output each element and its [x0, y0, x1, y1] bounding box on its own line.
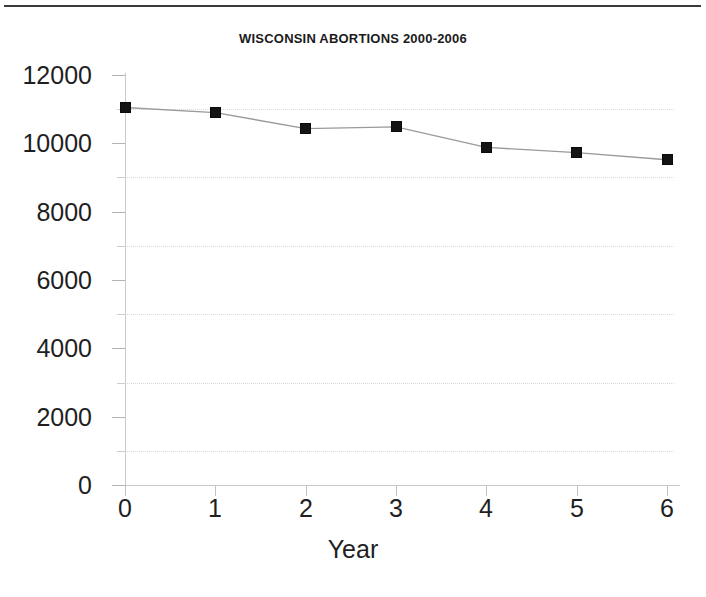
data-point-6	[662, 154, 673, 165]
chart-figure: WISCONSIN ABORTIONS 2000-2006 12000 1000…	[0, 0, 706, 597]
data-point-0	[120, 102, 131, 113]
data-point-4	[481, 142, 492, 153]
data-point-3	[391, 121, 402, 132]
data-point-5	[571, 147, 582, 158]
series-line-layer	[0, 0, 706, 597]
series-polyline	[125, 108, 667, 160]
data-point-2	[300, 123, 311, 134]
data-point-1	[210, 107, 221, 118]
x-axis-title: Year	[0, 535, 706, 564]
plot-area: 12000 10000 8000 6000 4000 2000 0 0 1 2 …	[0, 0, 706, 597]
